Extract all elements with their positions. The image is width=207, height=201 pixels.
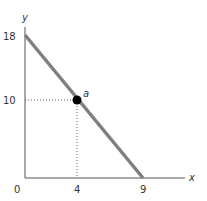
origin-label: 0: [14, 184, 20, 195]
x-tick-4: 4: [74, 184, 80, 195]
point-a: [73, 96, 82, 105]
point-a-label: a: [83, 88, 89, 99]
y-axis-label: y: [21, 12, 29, 23]
x-axis-label: x: [188, 172, 195, 183]
x-tick-9: 9: [140, 184, 146, 195]
y-tick-10: 10: [3, 95, 16, 106]
y-tick-18: 18: [3, 31, 16, 42]
demand-line: [25, 35, 143, 178]
chart: a 18 10 0 4 9 y x: [0, 0, 207, 201]
